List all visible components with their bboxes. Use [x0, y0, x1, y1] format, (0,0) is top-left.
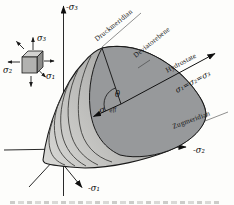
cropped-caption-remnant: [10, 201, 222, 204]
stress-space-diagram: σ₃ σ₂ σ₁ -σ₃ -σ₂ -σ₁ Druckmeridian Devia…: [0, 0, 234, 205]
cube-label-sigma3: σ₃: [37, 33, 46, 43]
label-sigma3-axis: -σ₃: [66, 2, 78, 12]
cube-label-sigma1: σ₁: [46, 71, 55, 81]
cube-front-face: [22, 57, 37, 73]
label-sigma2-axis: -σ₂: [193, 145, 205, 155]
label-sigma-eff-base: σ: [98, 104, 106, 115]
cube-label-sigma2: σ₂: [3, 65, 12, 75]
figure-canvas: σ₃ σ₂ σ₁ -σ₃ -σ₂ -σ₁ Druckmeridian Devia…: [0, 0, 234, 205]
label-sigma1-axis: -σ₁: [88, 183, 100, 193]
label-lode-angle: θ: [115, 89, 120, 99]
